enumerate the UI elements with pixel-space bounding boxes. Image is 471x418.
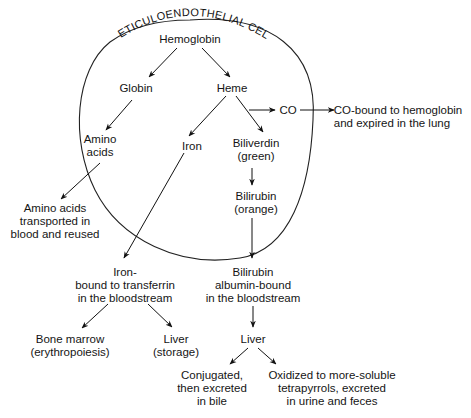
node-iron: Iron <box>182 140 202 153</box>
node-co: CO <box>279 104 296 117</box>
node-conjugated: Conjugated, then excreted in bile <box>177 369 247 408</box>
node-heme: Heme <box>217 82 248 95</box>
node-iron-transferrin: Iron- bound to transferrin in the bloods… <box>75 266 175 305</box>
heme-degradation-diagram: RETICULOENDOTHELIAL CELL Hemoglobin Glob… <box>0 0 471 418</box>
node-globin: Globin <box>119 82 152 95</box>
node-bilirubin-albumin: Bilirubin albumin-bound in the bloodstre… <box>206 266 301 305</box>
node-bone-marrow: Bone marrow (erythropoiesis) <box>30 333 109 359</box>
node-liver: Liver <box>241 333 266 346</box>
cell-label: RETICULOENDOTHELIAL CELL <box>0 0 272 41</box>
node-bilirubin: Bilirubin (orange) <box>234 190 277 216</box>
svg-text:RETICULOENDOTHELIAL CELL: RETICULOENDOTHELIAL CELL <box>0 0 272 41</box>
node-oxidized: Oxidized to more-soluble tetrapyrrols, e… <box>268 369 395 408</box>
node-co-fate: CO-bound to hemoglobin and expired in th… <box>334 104 463 130</box>
node-amino-fate: Amino acids transported in blood and reu… <box>11 202 100 241</box>
node-biliverdin: Biliverdin (green) <box>233 137 280 163</box>
node-liver-storage: Liver (storage) <box>153 333 199 359</box>
node-amino-acids: Amino acids <box>84 133 117 159</box>
node-hemoglobin: Hemoglobin <box>159 33 220 46</box>
